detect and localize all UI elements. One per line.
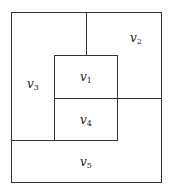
- region-label-v5: v5: [80, 156, 92, 170]
- region-label-v4: v4: [80, 114, 92, 128]
- region-label-v1: v1: [80, 71, 92, 85]
- region-label-v2: v2: [130, 32, 142, 46]
- region-label-v3: v3: [27, 78, 39, 92]
